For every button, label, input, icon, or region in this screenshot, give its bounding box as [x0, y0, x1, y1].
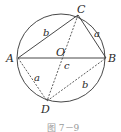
segment-label-AB: c: [64, 60, 70, 71]
geometry-figure: A B C D O b a c a b 图 7－9: [0, 0, 121, 132]
segment-label-AD: a: [34, 72, 40, 83]
segment-label-AC: b: [43, 27, 49, 38]
point-label-B: B: [107, 52, 116, 65]
segment-label-DB: b: [82, 79, 88, 90]
figure-caption: 图 7－9: [47, 123, 80, 132]
point-label-D: D: [40, 103, 50, 116]
point-label-A: A: [5, 52, 14, 65]
segment-DB: [47, 58, 106, 101]
segment-label-CB: a: [94, 28, 100, 39]
segment-CB: [78, 15, 106, 58]
point-label-C: C: [77, 3, 86, 16]
center-label-O: O: [56, 46, 65, 59]
